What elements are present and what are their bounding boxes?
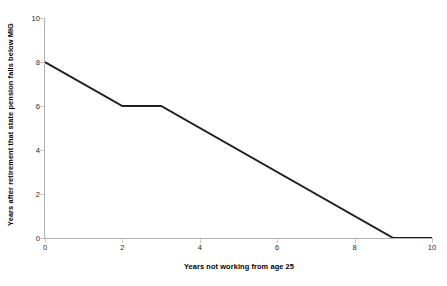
chart-container: Years after retirement that state pensio… [0,0,447,286]
plot-area [45,18,432,238]
x-tick-label: 10 [412,243,447,252]
y-tick-mark [40,18,44,19]
y-tick-mark [40,62,44,63]
y-tick-mark [40,194,44,195]
x-axis-tick-labels: 0246810 [0,243,447,257]
series-line-years-below-mig [45,18,432,238]
x-tick-label: 2 [102,243,142,252]
y-tick-mark [40,150,44,151]
x-tick-label: 0 [25,243,65,252]
x-axis-title: Years not working from age 25 [45,262,433,271]
x-tick-label: 6 [257,243,297,252]
x-tick-label: 8 [335,243,375,252]
data-line [45,62,432,238]
x-tick-label: 4 [180,243,220,252]
y-tick-mark [40,106,44,107]
y-tick-mark [40,238,44,239]
